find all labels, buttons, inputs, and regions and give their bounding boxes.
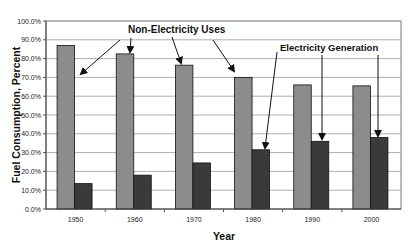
y-tick-label: 40.0% <box>21 130 41 137</box>
y-tick-label: 60.0% <box>21 93 41 100</box>
y-axis-label: Fuel Consumption, Percent <box>10 46 22 183</box>
x-tick-label: 2000 <box>364 216 380 223</box>
bar-electricity-generation-1980 <box>252 150 269 209</box>
bar-electricity-generation-1950 <box>75 184 93 209</box>
y-tick-label: 10.0% <box>21 187 41 194</box>
bar-non-electricity-uses-1970 <box>175 65 193 209</box>
bar-non-electricity-uses-1980 <box>235 77 253 209</box>
bar-electricity-generation-1960 <box>134 175 152 209</box>
annotation-non-electricity-uses: Non-Electricity Uses <box>128 24 226 35</box>
bar-electricity-generation-1970 <box>193 163 211 209</box>
bar-electricity-generation-2000 <box>370 138 388 209</box>
x-tick-label: 1950 <box>68 216 84 223</box>
x-tick-label: 1990 <box>304 216 320 223</box>
x-tick-label: 1980 <box>245 216 261 223</box>
y-tick-label: 100.0% <box>17 18 41 25</box>
x-tick-label: 1970 <box>186 216 202 223</box>
bar-non-electricity-uses-2000 <box>353 86 371 209</box>
y-tick-label: 90.0% <box>21 36 41 43</box>
bar-non-electricity-uses-1990 <box>294 85 312 209</box>
y-tick-label: 20.0% <box>21 168 41 175</box>
y-tick-label: 70.0% <box>21 74 41 81</box>
y-tick-label: 30.0% <box>21 149 41 156</box>
bar-electricity-generation-1990 <box>311 141 329 209</box>
x-axis-ticks: 195019601970198019902000 <box>46 209 401 223</box>
bar-chart: 0.0%10.0%20.0%30.0%40.0%50.0%60.0%70.0%8… <box>0 0 413 248</box>
x-tick-label: 1960 <box>127 216 143 223</box>
bar-non-electricity-uses-1950 <box>57 45 74 209</box>
y-tick-label: 80.0% <box>21 55 41 62</box>
bar-non-electricity-uses-1960 <box>116 54 134 209</box>
y-tick-label: 0.0% <box>25 206 41 213</box>
annotation-electricity-generation: Electricity Generation <box>280 42 378 53</box>
x-axis-label: Year <box>213 230 235 242</box>
y-tick-label: 50.0% <box>21 112 41 119</box>
